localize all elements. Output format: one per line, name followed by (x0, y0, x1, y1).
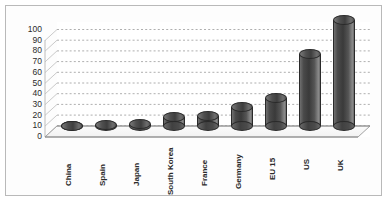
x-label-south-korea: South Korea (166, 147, 175, 195)
x-label-us: US (302, 159, 311, 170)
x-axis-category-labels: China Spain Japan South Korea France Ger… (0, 0, 388, 202)
x-label-eu-15: EU 15 (268, 158, 277, 180)
x-label-japan: Japan (132, 163, 141, 186)
x-label-spain: Spain (98, 164, 107, 186)
x-label-france: France (200, 160, 209, 186)
x-label-uk: UK (336, 159, 345, 171)
x-label-china: China (64, 164, 73, 186)
chart-screenshot: 100 90 80 70 60 50 40 30 20 10 0 (0, 0, 388, 202)
x-label-germany: Germany (234, 154, 243, 189)
